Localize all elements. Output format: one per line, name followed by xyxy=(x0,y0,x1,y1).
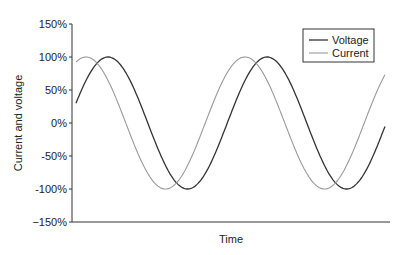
current-line xyxy=(76,57,385,189)
y-tick-label: 150% xyxy=(39,18,67,30)
y-tick-label: -50% xyxy=(41,150,67,162)
voltage-line xyxy=(76,57,385,189)
x-axis-label: Time xyxy=(219,233,243,245)
y-tick-label: -100% xyxy=(35,183,67,195)
chart: 150%100%50%0%-50%-100%−150% Time Current… xyxy=(0,0,403,255)
legend-current-label: Current xyxy=(332,47,369,59)
y-tick-label: −150% xyxy=(32,216,67,228)
y-tick-label: 100% xyxy=(39,51,67,63)
y-axis-ticks: 150%100%50%0%-50%-100%−150% xyxy=(32,18,72,228)
legend: Voltage Current xyxy=(303,29,374,62)
legend-voltage-label: Voltage xyxy=(332,34,369,46)
y-tick-label: 50% xyxy=(45,84,67,96)
y-tick-label: 0% xyxy=(51,117,67,129)
y-axis-label: Current and voltage xyxy=(12,75,24,172)
